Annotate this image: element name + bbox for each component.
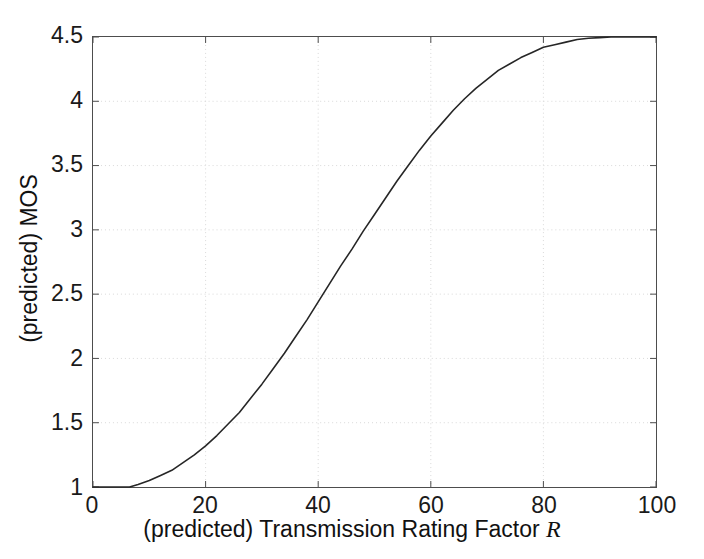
y-axis-tick-label: 4.5 bbox=[0, 24, 83, 47]
y-axis-tick-label: 4 bbox=[0, 89, 83, 112]
x-axis-tick-label: 40 bbox=[278, 494, 358, 517]
y-axis-tick-label: 1.5 bbox=[0, 411, 83, 434]
x-axis-tick-label: 60 bbox=[391, 494, 471, 517]
x-axis-tick-label: 80 bbox=[504, 494, 584, 517]
plot-area bbox=[92, 36, 657, 488]
x-axis-title-symbol: R bbox=[546, 516, 561, 542]
figure-canvas: 11.522.533.544.5 020406080100 (predicted… bbox=[0, 0, 704, 559]
x-axis-title-text: (predicted) Transmission Rating Factor bbox=[143, 516, 546, 542]
x-axis-tick-label: 0 bbox=[52, 494, 132, 517]
x-axis-title: (predicted) Transmission Rating Factor R bbox=[0, 516, 704, 543]
x-axis-tick-label: 100 bbox=[617, 494, 697, 517]
data-series-line bbox=[93, 37, 656, 487]
y-axis-title: (predicted) MOS bbox=[16, 129, 43, 389]
x-axis-tick-label: 20 bbox=[165, 494, 245, 517]
